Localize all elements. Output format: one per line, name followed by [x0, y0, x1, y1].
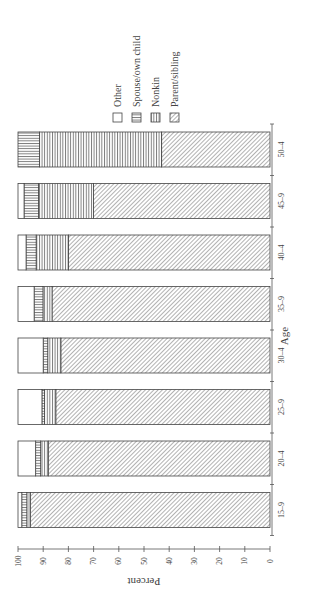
bar-segment	[18, 235, 26, 270]
bar-segment	[68, 235, 270, 270]
bar-segment	[56, 390, 270, 425]
tick-label: 60	[114, 557, 123, 565]
bar-15–9	[18, 493, 270, 528]
x-axis-title: Age	[278, 327, 290, 345]
tick-label: 30	[190, 557, 199, 565]
bar-segment	[48, 338, 61, 373]
legend-swatch	[113, 113, 122, 122]
category-label: 25–9	[277, 399, 286, 415]
bar-segment	[18, 493, 22, 528]
bar-segment	[38, 184, 93, 219]
category-label: 30–4	[277, 348, 286, 364]
category-label: 50–4	[277, 142, 286, 158]
bar-segment	[39, 132, 161, 167]
bar-segment	[18, 184, 24, 219]
bar-segment	[41, 441, 49, 476]
category-label: 20–4	[277, 451, 286, 467]
bars-group	[18, 132, 270, 528]
tick-label: 100	[14, 555, 23, 567]
bar-45–9	[18, 184, 270, 219]
bar-segment	[44, 390, 55, 425]
legend-item: Spouse/own child	[131, 36, 142, 122]
bar-segment	[18, 132, 39, 167]
legend-label: Spouse/own child	[131, 36, 142, 107]
legend-item: Nonkin	[150, 77, 161, 122]
bar-segment	[34, 287, 43, 322]
bar-25–9	[18, 390, 270, 425]
legend-item: Parent/sibling	[169, 51, 180, 122]
bar-segment	[36, 441, 41, 476]
bar-segment	[48, 441, 270, 476]
legend-label: Nonkin	[150, 77, 161, 107]
tick-label: 0	[266, 559, 275, 563]
category-label: 45–9	[277, 193, 286, 209]
bar-segment	[22, 493, 27, 528]
bar-segment	[24, 184, 38, 219]
bar-50–4	[18, 132, 270, 167]
legend-label: Parent/sibling	[169, 51, 180, 107]
bar-segment	[18, 441, 36, 476]
bar-segment	[61, 338, 270, 373]
bar-segment	[52, 287, 270, 322]
bar-35–9	[18, 287, 270, 322]
tick-label: 40	[165, 557, 174, 565]
legend-label: Other	[112, 84, 123, 107]
category-label: 15–9	[277, 502, 286, 518]
tick-label: 10	[240, 557, 249, 565]
legend-swatch	[151, 113, 160, 122]
bar-segment	[26, 235, 36, 270]
tick-label: 50	[140, 557, 149, 565]
tick-label: 70	[89, 557, 98, 565]
bar-segment	[36, 235, 68, 270]
bar-segment	[31, 493, 270, 528]
legend-swatch	[132, 113, 141, 122]
bar-30–4	[18, 338, 270, 373]
tick-label: 90	[39, 557, 48, 565]
y-axis-title: Percent	[128, 576, 161, 588]
category-label: 40–4	[277, 245, 286, 261]
bar-40–4	[18, 235, 270, 270]
bar-segment	[162, 132, 270, 167]
stacked-bar-chart: 15–920–425–930–435–940–445–950–401020304…	[0, 0, 313, 598]
legend-swatch	[170, 113, 179, 122]
bar-20–4	[18, 441, 270, 476]
bar-segment	[94, 184, 270, 219]
bar-segment	[43, 287, 52, 322]
tick-label: 20	[215, 557, 224, 565]
bar-segment	[18, 390, 42, 425]
bar-segment	[27, 493, 31, 528]
bar-segment	[18, 287, 34, 322]
category-label: 35–9	[277, 296, 286, 312]
tick-label: 80	[64, 557, 73, 565]
bar-segment	[43, 338, 48, 373]
bar-segment	[18, 338, 43, 373]
legend: OtherSpouse/own childNonkinParent/siblin…	[112, 36, 180, 122]
legend-item: Other	[112, 84, 123, 122]
